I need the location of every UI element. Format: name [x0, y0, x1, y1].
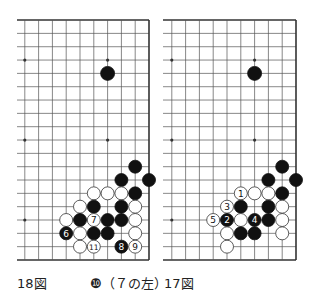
white-stone	[129, 200, 142, 213]
star-point	[253, 138, 256, 141]
star-point	[23, 218, 26, 221]
black-stone	[234, 227, 247, 240]
star-point	[170, 138, 173, 141]
move-note-10: ❿（７の左）	[90, 273, 167, 292]
caption-diagram-18: 18図	[17, 273, 47, 292]
move-number: 5	[210, 215, 216, 225]
black-stone: 2	[221, 214, 234, 227]
black-stone	[276, 187, 289, 200]
white-stone	[221, 240, 234, 253]
move-number: 11	[89, 243, 99, 252]
white-stone: 7	[87, 214, 100, 227]
white-stone	[276, 227, 289, 240]
black-stone: 6	[60, 227, 73, 240]
black-stone	[87, 200, 100, 213]
white-stone	[248, 187, 261, 200]
go-board-18: 761189	[17, 20, 156, 260]
black-stone	[234, 200, 247, 213]
white-stone	[74, 200, 87, 213]
white-stone	[74, 227, 87, 240]
star-point	[170, 218, 173, 221]
black-stone	[129, 160, 142, 173]
move-number: 6	[63, 229, 69, 239]
black-stone	[74, 214, 87, 227]
star-point	[23, 138, 26, 141]
go-diagrams: 761189 13524	[0, 0, 314, 295]
black-stone	[101, 214, 114, 227]
white-stone: 3	[221, 200, 234, 213]
white-stone	[87, 187, 100, 200]
go-board-17: 13524	[163, 20, 303, 260]
star-point	[253, 58, 256, 61]
white-stone	[129, 214, 142, 227]
white-stone: 11	[87, 240, 100, 253]
white-stone	[115, 187, 128, 200]
move-number: 2	[224, 215, 230, 225]
star-point	[23, 58, 26, 61]
white-stone	[276, 214, 289, 227]
black-stone	[262, 214, 275, 227]
move-number: 9	[132, 242, 138, 252]
white-stone	[221, 227, 234, 240]
white-stone	[262, 187, 275, 200]
white-stone	[129, 227, 142, 240]
black-stone	[248, 227, 261, 240]
black-stone	[262, 200, 275, 213]
move-number: 3	[224, 202, 230, 212]
white-stone	[234, 214, 247, 227]
move-number: 1	[238, 189, 244, 199]
white-stone: 1	[234, 187, 247, 200]
black-stone	[129, 187, 142, 200]
black-stone	[143, 174, 156, 187]
black-stone: 4	[248, 214, 261, 227]
black-stone	[101, 227, 114, 240]
white-stone	[74, 240, 87, 253]
black-stone	[115, 200, 128, 213]
caption-diagram-17: 17図	[164, 273, 194, 292]
white-stone	[60, 214, 73, 227]
black-stone	[248, 66, 262, 80]
move-number: 7	[91, 215, 97, 225]
black-stone	[87, 227, 100, 240]
white-stone	[276, 200, 289, 213]
white-stone: 9	[129, 240, 142, 253]
star-point	[106, 58, 109, 61]
black-stone	[101, 66, 115, 80]
move-number: 4	[252, 215, 258, 225]
white-stone: 5	[207, 214, 220, 227]
white-stone	[101, 187, 114, 200]
black-stone: 8	[115, 240, 128, 253]
black-stone	[290, 174, 303, 187]
move-number: 8	[119, 242, 125, 252]
black-stone	[262, 174, 275, 187]
black-stone	[115, 174, 128, 187]
star-point	[170, 58, 173, 61]
black-stone	[115, 214, 128, 227]
star-point	[106, 138, 109, 141]
black-stone	[276, 160, 289, 173]
